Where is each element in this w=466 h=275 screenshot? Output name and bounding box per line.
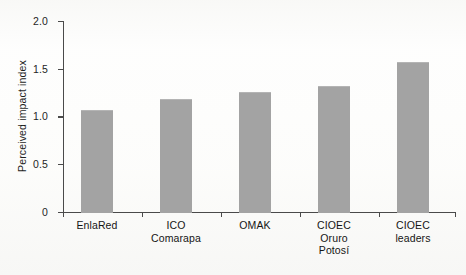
x-label-cioec-leaders-line-2: leaders [365, 232, 461, 245]
y-tick-label-1.0: 1.0 [22, 110, 48, 122]
y-tick-label-0.5: 0.5 [22, 158, 48, 170]
y-tick-mark-1.5 [58, 69, 63, 70]
x-label-ico-comarapa-line-2: Comarapa [128, 232, 224, 245]
y-tick-mark-1.0 [58, 116, 63, 117]
bar-cioec-oruro-potosi [318, 86, 350, 213]
y-tick-label-1.5: 1.5 [22, 63, 48, 75]
y-tick-label-0: 0 [22, 206, 48, 218]
x-tick-mark-1 [142, 212, 143, 217]
plot-area: Perceived impact index 2.0 1.5 1.0 0.5 0… [0, 0, 466, 275]
y-tick-mark-2.0 [58, 21, 63, 22]
x-label-cioec-leaders-line-1: CIOEC [365, 219, 461, 232]
x-tick-mark-3 [300, 212, 301, 217]
x-label-cioec-oruro-potosi-line-3: Potosí [286, 244, 382, 257]
x-tick-mark-2 [221, 212, 222, 217]
bar-enlared [81, 110, 113, 213]
x-tick-mark-4 [379, 212, 380, 217]
x-label-cioec-leaders: CIOEC leaders [365, 219, 461, 244]
x-tick-mark-5 [455, 212, 456, 217]
y-tick-mark-0.5 [58, 164, 63, 165]
bar-ico-comarapa [160, 99, 192, 213]
y-axis-line [63, 21, 64, 213]
bar-chart-figure: Perceived impact index 2.0 1.5 1.0 0.5 0… [0, 0, 466, 275]
x-tick-mark-0 [63, 212, 64, 217]
bar-omak [239, 92, 271, 213]
bar-cioec-leaders [397, 62, 429, 213]
y-tick-label-2.0: 2.0 [22, 15, 48, 27]
